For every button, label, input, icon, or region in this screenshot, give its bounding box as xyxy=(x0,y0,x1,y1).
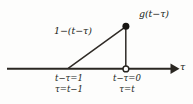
closed-dot-at-peak xyxy=(122,23,129,30)
open-circle-at-axis xyxy=(123,66,129,72)
tau-axis-arrowhead xyxy=(171,64,180,74)
signal-diagram: g(t−τ) 1−(t−τ) τ t−τ=1 τ=t−1 t−τ=0 τ=t xyxy=(0,0,193,104)
tick-label-right-line2: τ=t xyxy=(84,84,170,95)
slope-expression-label: 1−(t−τ) xyxy=(54,26,92,36)
peak-function-label: g(t−τ) xyxy=(139,9,169,19)
tick-label-right-line1: t−τ=0 xyxy=(84,73,170,84)
tau-axis-label: τ xyxy=(180,62,185,72)
tick-label-right: t−τ=0 τ=t xyxy=(84,73,170,95)
